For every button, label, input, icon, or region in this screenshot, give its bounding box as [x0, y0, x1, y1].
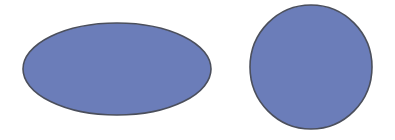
diagram-canvas: [0, 0, 395, 140]
circle-shape: [250, 5, 372, 129]
ellipse-shape: [23, 23, 211, 115]
